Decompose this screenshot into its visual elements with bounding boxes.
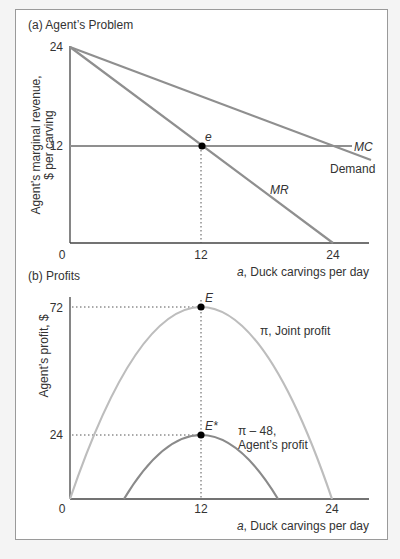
y-tick-72: 72 <box>50 301 64 315</box>
agent-profit-label: π – 48, Agent’s profit <box>238 424 308 452</box>
figure-svg: (a) Agent’s Problem Agent’s marginal rev… <box>0 0 400 559</box>
mc-label: MC <box>354 140 373 154</box>
mr-label: MR <box>270 183 289 197</box>
svg-text:Agent’s profit: Agent’s profit <box>238 438 308 452</box>
y-tick-12: 12 <box>50 139 64 153</box>
point-E <box>197 303 204 310</box>
panel-a-title: (a) Agent’s Problem <box>28 18 133 32</box>
x-tick-12b: 12 <box>194 502 208 516</box>
panel-b-title: (b) Profits <box>28 269 80 283</box>
panel-b-x-axis-label: a, Duck carvings per day <box>237 519 369 533</box>
x-tick-12: 12 <box>194 248 208 262</box>
point-E-star <box>197 431 204 438</box>
x-tick-0: 0 <box>59 248 66 262</box>
point-E-star-label: E* <box>205 419 218 433</box>
point-e-label: e <box>205 130 212 144</box>
demand-line <box>70 47 371 160</box>
joint-profit-label: π, Joint profit <box>260 324 331 338</box>
svg-text:π – 48,: π – 48, <box>238 424 276 438</box>
x-tick-0b: 0 <box>59 502 66 516</box>
panel-a-x-axis-label: a, Duck carvings per day <box>237 265 369 279</box>
x-tick-24: 24 <box>326 248 340 262</box>
demand-label: Demand <box>330 162 375 176</box>
panel-b-y-axis-label: Agent’s profit, $ <box>37 314 51 397</box>
y-tick-24: 24 <box>50 40 64 54</box>
x-tick-24b: 24 <box>325 502 339 516</box>
y-tick-24b: 24 <box>50 428 64 442</box>
svg-text:Agent’s marginal revenue,: Agent’s marginal revenue, <box>29 75 43 214</box>
point-E-label: E <box>205 291 214 305</box>
